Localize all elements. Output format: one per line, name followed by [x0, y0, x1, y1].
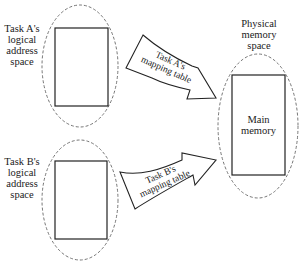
label-line: memory: [232, 125, 285, 136]
label-line: Task B's: [2, 156, 42, 167]
label-line: space: [2, 56, 42, 67]
label-line: space: [2, 189, 42, 200]
task-b-memory-block: [55, 161, 107, 239]
physical-memory-space-label: Physical memory space: [234, 18, 284, 51]
label-line: address: [2, 45, 42, 56]
label-line: Task A's: [2, 23, 42, 34]
task-b-logical-space-label: Task B's logical address space: [2, 156, 42, 200]
label-line: Physical: [234, 18, 284, 29]
label-line: logical: [2, 167, 42, 178]
label-line: Main: [232, 114, 285, 125]
task-a-logical-space-label: Task A's logical address space: [2, 23, 42, 67]
label-line: address: [2, 178, 42, 189]
label-line: space: [234, 40, 284, 51]
label-line: logical: [2, 34, 42, 45]
main-memory-label: Main memory: [232, 114, 285, 136]
label-line: memory: [234, 29, 284, 40]
task-a-memory-block: [55, 28, 108, 106]
